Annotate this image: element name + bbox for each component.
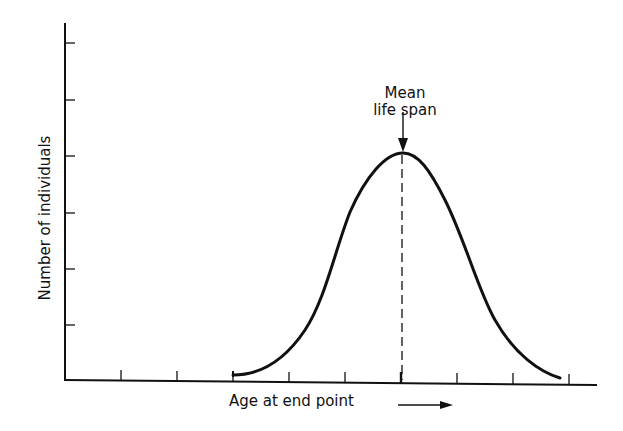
mean-life-span-annotation: Mean life span (350, 85, 460, 119)
x-axis-direction-arrow-icon (398, 401, 453, 409)
distribution-curve (233, 153, 560, 378)
mean-arrow-head (398, 138, 408, 152)
x-axis (64, 380, 597, 385)
y-axis-label: Number of individuals (36, 136, 54, 301)
x-ticks (121, 370, 569, 385)
annotation-line-1: Mean (350, 85, 460, 102)
chart-canvas (0, 0, 623, 431)
y-ticks (65, 43, 75, 325)
annotation-line-2: life span (350, 102, 460, 119)
x-axis-label: Age at end point (229, 392, 354, 410)
